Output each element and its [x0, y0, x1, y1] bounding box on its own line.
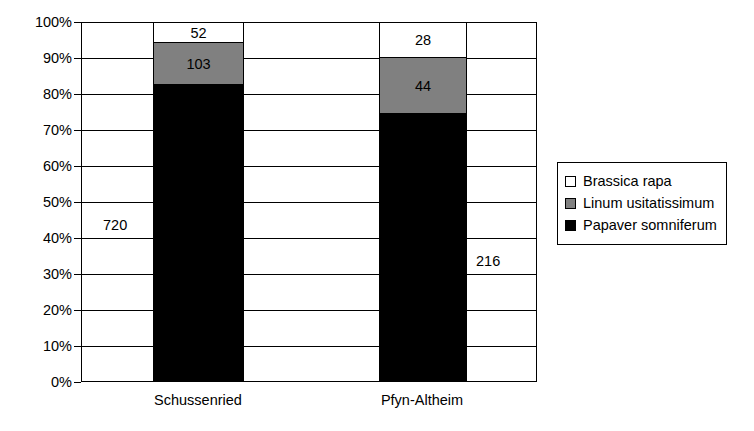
tick-mark-0	[74, 382, 81, 383]
tick-mark-70	[74, 130, 81, 131]
gridline-90	[82, 58, 536, 59]
bar-segment-linum-schussenried[interactable]: 103	[153, 42, 244, 85]
category-label-schussenried: Schussenried	[152, 392, 244, 408]
gridline-20	[82, 310, 536, 311]
legend-label-brassica-rapa: Brassica rapa	[583, 174, 672, 189]
legend-item-linum-usitatissimum[interactable]: Linum usitatissimum	[565, 192, 717, 214]
tick-mark-20	[74, 310, 81, 311]
bar-segment-papaver-schussenried[interactable]	[153, 84, 244, 381]
bar-segment-brassica-pfyn-altheim[interactable]: 28	[379, 22, 467, 58]
bar-label-brassica-pfyn-altheim: 28	[380, 33, 466, 47]
gridline-70	[82, 130, 536, 131]
category-label-pfyn-altheim: Pfyn-Altheim	[378, 392, 466, 408]
plot-area: 52 103 720 28 44 216	[81, 22, 537, 382]
bar-segment-linum-pfyn-altheim[interactable]: 44	[379, 57, 467, 114]
bar-schussenried[interactable]: 52 103	[153, 22, 244, 382]
legend-item-papaver-somniferum[interactable]: Papaver somniferum	[565, 214, 717, 236]
gridline-30	[82, 274, 536, 275]
tick-mark-80	[74, 94, 81, 95]
legend-swatch-black-icon	[565, 220, 576, 231]
tick-mark-90	[74, 58, 81, 59]
legend-item-brassica-rapa[interactable]: Brassica rapa	[565, 170, 717, 192]
stacked-bar-chart: 100% 90% 80% 70% 60% 50% 40% 30% 20% 10%…	[0, 0, 754, 431]
gridline-40	[82, 238, 536, 239]
gridline-50	[82, 202, 536, 203]
bar-label-brassica-schussenried: 52	[154, 26, 243, 40]
bar-label-linum-pfyn-altheim: 44	[380, 79, 466, 93]
tick-mark-30	[74, 274, 81, 275]
bar-segment-brassica-schussenried[interactable]: 52	[153, 22, 244, 43]
gridline-80	[82, 94, 536, 95]
y-axis-tick-marks	[0, 22, 81, 382]
legend-swatch-white-icon	[565, 176, 576, 187]
gridline-10	[82, 346, 536, 347]
tick-mark-40	[74, 238, 81, 239]
legend-label-papaver-somniferum: Papaver somniferum	[583, 218, 717, 233]
bar-segment-papaver-pfyn-altheim[interactable]	[379, 113, 467, 381]
bar-pfyn-altheim[interactable]: 28 44	[379, 22, 467, 382]
legend-label-linum-usitatissimum: Linum usitatissimum	[583, 196, 714, 211]
tick-mark-60	[74, 166, 81, 167]
bar-label-linum-schussenried: 103	[154, 57, 243, 71]
legend: Brassica rapa Linum usitatissimum Papave…	[557, 162, 727, 245]
tick-mark-10	[74, 346, 81, 347]
gridline-60	[82, 166, 536, 167]
gridline-0	[82, 381, 536, 382]
tick-mark-100	[74, 22, 81, 23]
gridline-100	[82, 22, 536, 23]
legend-swatch-gray-icon	[565, 198, 576, 209]
bar-label-papaver-pfyn-altheim: 216	[476, 254, 500, 268]
tick-mark-50	[74, 202, 81, 203]
bar-label-papaver-schussenried: 720	[103, 218, 127, 232]
